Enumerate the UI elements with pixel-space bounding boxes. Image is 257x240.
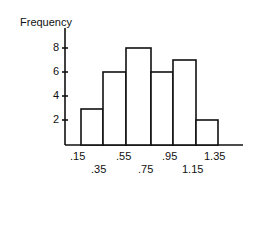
x-tick-label: .95 [162,150,177,162]
histogram-bar [196,120,218,145]
histogram-bar [103,72,126,145]
x-tick-label: 1.15 [182,163,203,175]
x-tick-label: .75 [138,163,153,175]
x-tick-label: .35 [91,163,106,175]
x-tick-label: .15 [70,150,85,162]
histogram-bar [126,48,151,145]
histogram-bar [173,60,196,145]
x-tick-label: 1.35 [204,150,225,162]
histogram-bar [151,72,173,145]
histogram-bar [81,109,103,145]
x-tick-label: .55 [116,150,131,162]
